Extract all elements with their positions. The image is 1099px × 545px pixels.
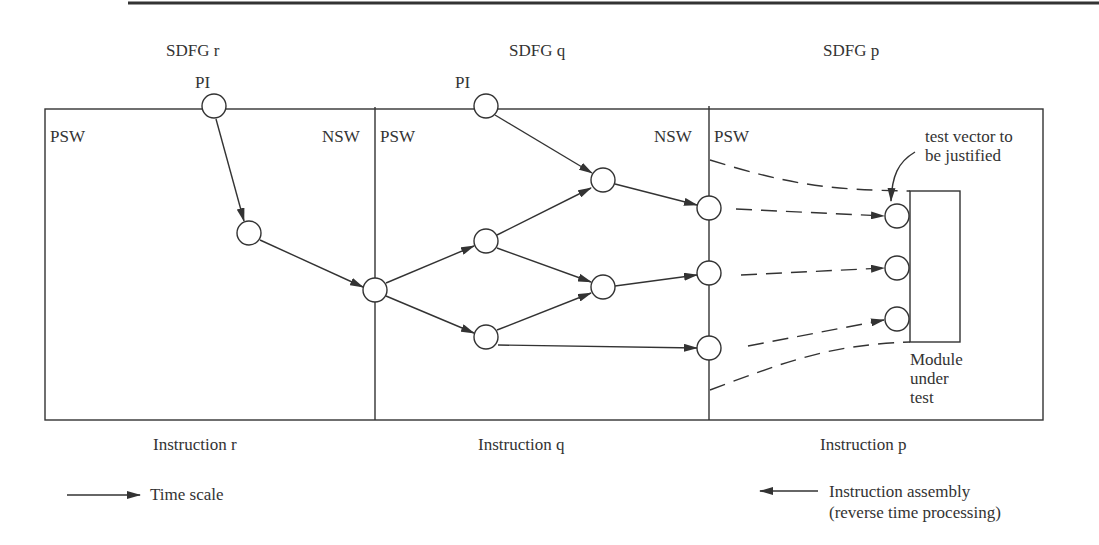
module-input-node [885, 256, 909, 280]
edge [497, 248, 591, 282]
psw-q-label: PSW [380, 127, 416, 146]
dashed-edge [736, 209, 884, 216]
edge [498, 345, 697, 348]
node [237, 221, 261, 245]
diagram-canvas: SDFG r SDFG q SDFG p PI PI PSW NSW PSW N… [0, 0, 1099, 545]
time-scale-label: Time scale [150, 485, 224, 504]
edge [495, 115, 592, 173]
module-input-node [885, 307, 909, 331]
dashed-envelope-top [710, 160, 910, 191]
annotation-line2: be justified [925, 146, 1002, 165]
instruction-assembly-label-line1: Instruction assembly [829, 482, 971, 501]
node [474, 325, 498, 349]
edge [260, 240, 363, 287]
edge [615, 275, 697, 286]
module-label-line3: test [910, 388, 934, 407]
node [474, 229, 498, 253]
dashed-envelope-bottom [710, 342, 910, 390]
sdfg-r-label: SDFG r [166, 41, 220, 60]
annotation-arrow [891, 152, 915, 201]
annotation-line1: test vector to [925, 127, 1013, 146]
pi-node-r [202, 94, 226, 118]
boundary-node-qp [697, 196, 721, 220]
psw-r-label: PSW [50, 127, 86, 146]
edge [386, 246, 474, 283]
pi-r-label: PI [195, 73, 210, 92]
node [591, 168, 615, 192]
nsw-r-label: NSW [322, 127, 361, 146]
dashed-edge [748, 320, 884, 346]
boundary-node-qp [697, 336, 721, 360]
module-label-line1: Module [910, 350, 963, 369]
nsw-q-label: NSW [654, 127, 693, 146]
instruction-assembly-label-line2: (reverse time processing) [829, 503, 1001, 522]
dashed-edge [741, 268, 884, 275]
boundary-node-rq [363, 278, 387, 302]
module-input-node [885, 204, 909, 228]
node [591, 275, 615, 299]
module-label-line2: under [910, 369, 949, 388]
pi-q-label: PI [455, 73, 470, 92]
edge [497, 293, 591, 330]
sdfg-p-label: SDFG p [823, 41, 879, 60]
edge [497, 188, 591, 235]
psw-p-label: PSW [714, 127, 750, 146]
boundary-node-qp [697, 261, 721, 285]
edge [386, 296, 474, 333]
instruction-r-label: Instruction r [153, 435, 237, 454]
edge [216, 119, 244, 221]
module-under-test-box [910, 191, 960, 342]
edge [615, 184, 697, 205]
pi-node-q [474, 94, 498, 118]
sdfg-q-label: SDFG q [509, 41, 566, 60]
instruction-q-label: Instruction q [478, 435, 565, 454]
instruction-p-label: Instruction p [820, 435, 906, 454]
